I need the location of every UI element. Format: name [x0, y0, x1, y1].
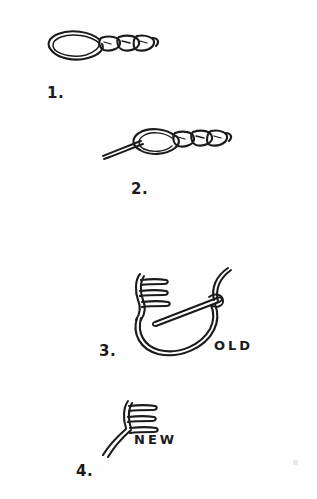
figure-2-threaded-loop [103, 129, 231, 159]
figure-1-loop-and-coils [49, 31, 158, 59]
step-1-number: 1. [47, 84, 64, 102]
knot-illustration [0, 0, 317, 499]
step-3-number: 3. [99, 342, 116, 360]
step-2-number: 2. [131, 180, 148, 198]
figure-4-new-hook [103, 401, 158, 457]
step-4-number: 4. [76, 462, 93, 480]
new-hook-label: NEW [134, 432, 177, 447]
paper-smudge [293, 460, 298, 465]
diagram-page: 1. 2. 3. 4. OLD NEW [0, 0, 317, 499]
old-hook-label: OLD [214, 338, 253, 353]
